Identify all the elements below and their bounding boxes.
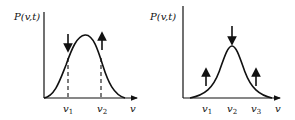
left-figure: P(v,t) v v1 v2 <box>13 11 137 116</box>
left-x-label: v <box>130 103 136 114</box>
right-tick-v2: v2 <box>227 103 237 116</box>
right-figure: P(v,t) v v1 v2 v3 <box>149 6 281 116</box>
left-tick-v1: v1 <box>63 103 73 116</box>
diagram: P(v,t) v v1 v2 P(v,t) v v1 v2 v3 <box>0 0 295 120</box>
right-tick-v3: v3 <box>251 103 261 116</box>
right-tick-v1: v1 <box>202 103 212 116</box>
left-distribution-curve <box>44 35 125 98</box>
right-y-label: P(v,t) <box>149 11 176 22</box>
left-y-label: P(v,t) <box>13 11 40 22</box>
right-distribution-curve <box>190 46 272 98</box>
right-x-label: v <box>275 103 281 114</box>
left-tick-v2: v2 <box>97 103 107 116</box>
